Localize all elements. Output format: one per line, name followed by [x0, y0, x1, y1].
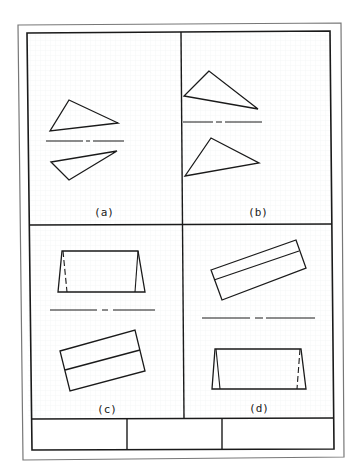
panel-label: (c) — [97, 403, 117, 416]
drawing-sheet: (a) (b) (c) (d) — [0, 0, 354, 476]
panel-label: (b) — [248, 206, 268, 219]
panel-label: (a) — [94, 206, 114, 219]
grid-area — [28, 33, 332, 419]
panel-label: (d) — [249, 402, 269, 415]
